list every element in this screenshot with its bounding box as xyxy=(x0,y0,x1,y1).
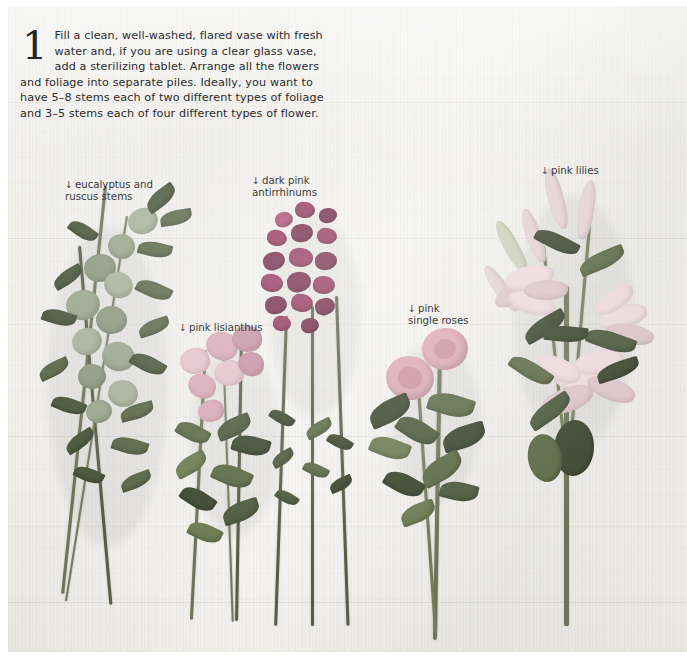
flower-group-lily-pile xyxy=(478,166,668,636)
flower-group-antirrhinum-pile xyxy=(253,196,373,636)
flower-group-rose-pile xyxy=(366,316,496,636)
down-arrow-icon: ↓ xyxy=(541,165,549,176)
annotation-eucalyptus-ruscus: ↓eucalyptus and ruscus stems xyxy=(65,166,153,204)
photo-plate: 1Fill a clean, well-washed, flared vase … xyxy=(8,6,687,652)
annotation-dark-pink-antirrhinums: ↓dark pink antirrhinums xyxy=(252,162,317,200)
annotation-label: pink single roses xyxy=(408,303,468,327)
annotation-label: eucalyptus and ruscus stems xyxy=(65,179,153,203)
down-arrow-icon: ↓ xyxy=(179,322,187,333)
annotation-label: dark pink antirrhinums xyxy=(252,175,317,199)
down-arrow-icon: ↓ xyxy=(65,179,73,190)
step-caption: 1Fill a clean, well-washed, flared vase … xyxy=(20,28,340,122)
annotation-label: pink lilies xyxy=(551,165,599,176)
down-arrow-icon: ↓ xyxy=(252,175,260,186)
annotation-pink-single-roses: ↓pink single roses xyxy=(408,290,468,328)
step-number: 1 xyxy=(22,30,48,60)
annotation-pink-lilies: ↓pink lilies xyxy=(541,152,599,177)
page-root: 1Fill a clean, well-washed, flared vase … xyxy=(0,0,687,662)
annotation-label: pink lisianthus xyxy=(189,322,263,333)
down-arrow-icon: ↓ xyxy=(408,303,416,314)
step-caption-text: Fill a clean, well-washed, flared vase w… xyxy=(20,29,324,120)
annotation-pink-lisianthus: ↓pink lisianthus xyxy=(179,309,263,334)
